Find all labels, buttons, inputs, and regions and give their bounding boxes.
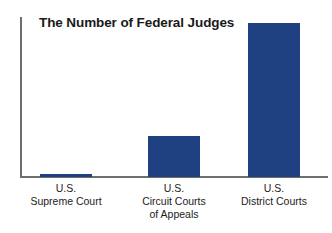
x-axis-label-supreme-court: U.S. Supreme Court bbox=[6, 182, 126, 208]
bar-chart-figure: The Number of Federal Judges U.S. Suprem… bbox=[0, 0, 332, 233]
bar-district-courts bbox=[248, 23, 300, 177]
x-axis-label-line: U.S. bbox=[6, 182, 126, 195]
bar-circuit-courts bbox=[148, 136, 200, 177]
x-axis-label-district-courts: U.S. District Courts bbox=[214, 182, 332, 208]
chart-title: The Number of Federal Judges bbox=[39, 16, 234, 30]
y-axis-line bbox=[20, 17, 22, 177]
bar-supreme-court bbox=[40, 174, 92, 177]
x-axis-label-line: of Appeals bbox=[114, 208, 234, 221]
x-axis-label-line: U.S. bbox=[214, 182, 332, 195]
x-axis-label-line: Supreme Court bbox=[6, 195, 126, 208]
x-axis-label-line: District Courts bbox=[214, 195, 332, 208]
